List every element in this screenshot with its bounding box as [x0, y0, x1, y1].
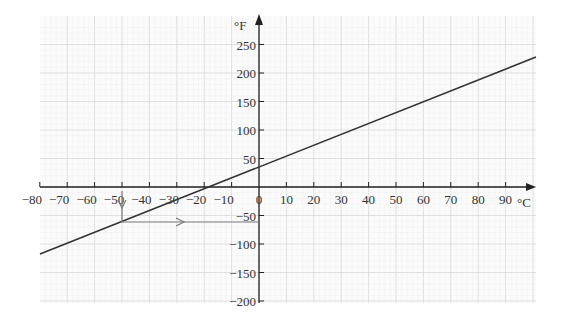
x-tick-label: 0	[256, 192, 263, 207]
y-tick-label: −150	[229, 266, 256, 281]
y-tick-label: 150	[237, 95, 257, 110]
y-axis-label: °F	[234, 18, 246, 33]
x-tick-label: 70	[444, 192, 457, 207]
y-tick-label: 50	[243, 152, 256, 167]
x-tick-label: 20	[307, 192, 320, 207]
x-tick-label: 10	[280, 192, 293, 207]
x-tick-label: 30	[335, 192, 348, 207]
x-tick-label: 40	[362, 192, 375, 207]
x-tick-label: −60	[76, 192, 96, 207]
x-tick-label: 60	[417, 192, 430, 207]
x-tick-label: −50	[104, 192, 124, 207]
x-tick-label: −80	[22, 192, 42, 207]
y-tick-label: −200	[229, 294, 256, 309]
x-tick-label: −10	[213, 192, 233, 207]
x-tick-label: 50	[390, 192, 403, 207]
x-tick-label: −70	[49, 192, 69, 207]
x-tick-label: 80	[472, 192, 485, 207]
y-tick-label: 200	[237, 66, 257, 81]
x-tick-label: 90	[499, 192, 512, 207]
y-tick-label: 250	[237, 38, 257, 53]
y-tick-label: 100	[237, 123, 257, 138]
grid	[40, 16, 536, 303]
x-tick-label: −40	[131, 192, 151, 207]
x-axis-label: °C	[517, 195, 531, 210]
y-tick-label: −50	[236, 209, 256, 224]
temperature-conversion-chart: −80−70−60−50−40−30−20−100102030405060708…	[0, 0, 563, 324]
y-tick-label: −100	[229, 237, 256, 252]
